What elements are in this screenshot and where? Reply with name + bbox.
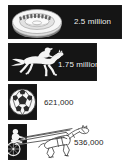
soccer-ball-icon bbox=[8, 84, 37, 120]
bar-value-label: 2.5 million bbox=[74, 17, 111, 26]
chart-bar-row: 621,000 bbox=[0, 84, 134, 120]
bar-value-label: 536,000 bbox=[74, 138, 104, 147]
bar-fill bbox=[8, 84, 37, 120]
stadium-oval-icon bbox=[8, 5, 66, 39]
bar-value-label: 621,000 bbox=[44, 98, 74, 107]
pictorial-bar-chart: 2.5 million bbox=[0, 0, 134, 165]
bar-value-label: 1.75 million bbox=[58, 60, 97, 69]
racehorse-jockey-icon bbox=[8, 43, 64, 81]
bar-fill bbox=[8, 124, 27, 160]
chart-bar-row: 1.75 million bbox=[0, 43, 134, 81]
bar-fill: 1.75 million bbox=[8, 43, 97, 81]
chart-bar-row: 536,000 bbox=[0, 124, 134, 160]
harness-racing-sulky-icon bbox=[8, 124, 27, 160]
chart-bar-row: 2.5 million bbox=[0, 5, 134, 39]
bar-fill: 2.5 million bbox=[8, 5, 122, 39]
